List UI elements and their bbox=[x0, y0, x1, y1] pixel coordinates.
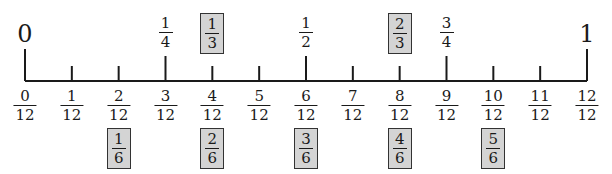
numerator: 1 bbox=[299, 15, 313, 31]
twelfths-label: 712 bbox=[341, 88, 364, 123]
denominator: 12 bbox=[248, 107, 271, 123]
denominator: 12 bbox=[154, 107, 177, 123]
endpoint-label-0: 0 bbox=[17, 20, 32, 48]
numerator: 8 bbox=[393, 88, 407, 104]
boxed-fraction-thirds: 23 bbox=[388, 13, 412, 54]
numerator: 11 bbox=[529, 88, 552, 104]
fraction-number-line: 0114131223340121122123124125126127128129… bbox=[0, 0, 612, 174]
denominator: 6 bbox=[487, 150, 501, 166]
denominator: 12 bbox=[60, 107, 83, 123]
fraction-label: 12 bbox=[299, 15, 313, 50]
numerator: 1 bbox=[159, 15, 173, 31]
denominator: 12 bbox=[435, 107, 458, 123]
numerator: 0 bbox=[18, 88, 32, 104]
numerator: 10 bbox=[482, 88, 505, 104]
twelfths-label: 1012 bbox=[482, 88, 505, 123]
denominator: 12 bbox=[13, 107, 36, 123]
denominator: 4 bbox=[159, 34, 173, 50]
numerator: 1 bbox=[65, 88, 79, 104]
twelfths-label: 512 bbox=[248, 88, 271, 123]
numerator: 7 bbox=[346, 88, 360, 104]
denominator: 12 bbox=[529, 107, 552, 123]
boxed-fraction-thirds: 13 bbox=[200, 13, 224, 54]
numerator: 5 bbox=[487, 131, 501, 147]
denominator: 12 bbox=[482, 107, 505, 123]
denominator: 12 bbox=[294, 107, 317, 123]
denominator: 12 bbox=[575, 107, 598, 123]
numerator: 1 bbox=[206, 16, 220, 32]
numerator: 2 bbox=[206, 131, 220, 147]
denominator: 6 bbox=[299, 150, 313, 166]
numerator: 4 bbox=[393, 131, 407, 147]
twelfths-label: 312 bbox=[154, 88, 177, 123]
denominator: 12 bbox=[201, 107, 224, 123]
denominator: 12 bbox=[388, 107, 411, 123]
twelfths-label: 1112 bbox=[529, 88, 552, 123]
numerator: 3 bbox=[159, 88, 173, 104]
numerator: 9 bbox=[440, 88, 454, 104]
numerator: 2 bbox=[112, 88, 126, 104]
numerator: 5 bbox=[252, 88, 266, 104]
numerator: 12 bbox=[575, 88, 598, 104]
numerator: 2 bbox=[393, 16, 407, 32]
boxed-fraction-sixths: 36 bbox=[294, 128, 318, 169]
denominator: 3 bbox=[393, 35, 407, 51]
denominator: 6 bbox=[393, 150, 407, 166]
boxed-fraction-sixths: 56 bbox=[481, 128, 505, 169]
numerator: 6 bbox=[299, 88, 313, 104]
boxed-fraction-sixths: 46 bbox=[388, 128, 412, 169]
twelfths-label: 212 bbox=[107, 88, 130, 123]
denominator: 6 bbox=[112, 150, 126, 166]
denominator: 6 bbox=[206, 150, 220, 166]
twelfths-label: 612 bbox=[294, 88, 317, 123]
boxed-fraction-sixths: 16 bbox=[107, 128, 131, 169]
twelfths-label: 1212 bbox=[575, 88, 598, 123]
twelfths-label: 912 bbox=[435, 88, 458, 123]
numerator: 1 bbox=[112, 131, 126, 147]
denominator: 4 bbox=[440, 34, 454, 50]
endpoint-label-1: 1 bbox=[579, 20, 594, 48]
denominator: 12 bbox=[107, 107, 130, 123]
boxed-fraction-sixths: 26 bbox=[200, 128, 224, 169]
denominator: 2 bbox=[299, 34, 313, 50]
denominator: 12 bbox=[341, 107, 364, 123]
fraction-label: 34 bbox=[440, 15, 454, 50]
twelfths-label: 112 bbox=[60, 88, 83, 123]
denominator: 3 bbox=[206, 35, 220, 51]
numerator: 4 bbox=[206, 88, 220, 104]
numerator: 3 bbox=[299, 131, 313, 147]
twelfths-label: 812 bbox=[388, 88, 411, 123]
numerator: 3 bbox=[440, 15, 454, 31]
twelfths-label: 412 bbox=[201, 88, 224, 123]
fraction-label: 14 bbox=[159, 15, 173, 50]
twelfths-label: 012 bbox=[13, 88, 36, 123]
